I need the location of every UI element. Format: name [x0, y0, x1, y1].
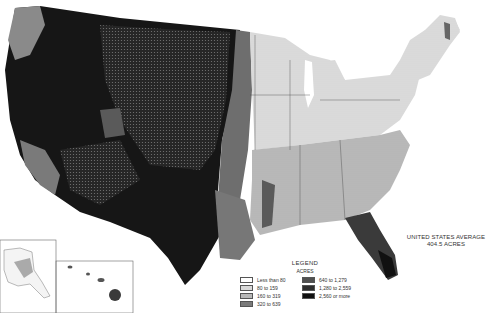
legend-swatch [240, 285, 253, 291]
legend-item-2560-plus: 2,560 or more [302, 292, 350, 299]
hawaii-islands [68, 265, 122, 301]
new-england [410, 15, 460, 80]
legend-swatch [302, 293, 315, 299]
us-average-note: UNITED STATES AVERAGE 404.5 ACRES [400, 234, 491, 248]
hawaii-inset-frame [56, 261, 133, 313]
legend-label: 80 to 159 [257, 285, 278, 291]
legend-label: Less than 80 [257, 277, 286, 283]
legend-unit: ACRES [285, 268, 325, 274]
legend-label: 2,560 or more [319, 293, 350, 299]
legend-item-1280-2559: 1,280 to 2,559 [302, 284, 351, 291]
michigan [318, 60, 345, 100]
texas-east [215, 190, 255, 260]
us-farm-size-map [0, 0, 491, 313]
legend-item-80-159: 80 to 159 [240, 284, 278, 291]
legend-swatch [240, 293, 253, 299]
lake-gap [330, 30, 395, 65]
legend-item-640-1279: 640 to 1,279 [302, 276, 347, 283]
legend-item-less-than-80: Less than 80 [240, 276, 286, 283]
legend-label: 320 to 639 [257, 301, 281, 307]
us-average-line2: 404.5 ACRES [400, 241, 491, 248]
legend-label: 160 to 319 [257, 293, 281, 299]
legend-swatch [240, 277, 253, 283]
legend-title: LEGEND [285, 260, 325, 266]
us-average-line1: UNITED STATES AVERAGE [400, 234, 491, 241]
legend-swatch [302, 285, 315, 291]
legend-swatch [302, 277, 315, 283]
legend-item-320-639: 320 to 639 [240, 300, 281, 307]
legend-label: 1,280 to 2,559 [319, 285, 351, 291]
legend-swatch [240, 301, 253, 307]
legend-label: 640 to 1,279 [319, 277, 347, 283]
legend-item-160-319: 160 to 319 [240, 292, 281, 299]
